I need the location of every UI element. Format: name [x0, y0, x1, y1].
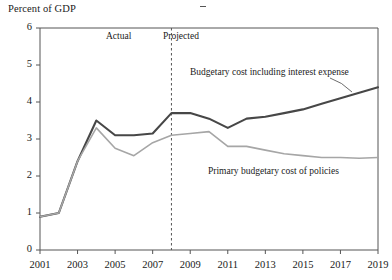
x-tick-label-2001: 2001 — [20, 259, 60, 270]
y-tick-label-2: 2 — [14, 169, 32, 180]
series-line-0 — [40, 87, 378, 217]
x-tick-label-2015: 2015 — [283, 259, 323, 270]
x-tick-label-2013: 2013 — [245, 259, 285, 270]
series-label-primary-budgetary-cost-of-policies: Primary budgetary cost of policies — [208, 166, 339, 176]
data-series-group — [40, 78, 378, 217]
series-label-leader-line — [330, 78, 352, 92]
y-tick-label-1: 1 — [14, 206, 32, 217]
x-tick-label-2017: 2017 — [320, 259, 360, 270]
line-chart-plot — [0, 0, 392, 280]
y-tick-label-5: 5 — [14, 58, 32, 69]
chart-container: Percent of GDP 0123456 20012003200520072… — [0, 0, 392, 280]
x-tick-label-2009: 2009 — [170, 259, 210, 270]
y-tick-label-6: 6 — [14, 21, 32, 32]
x-tick-label-2003: 2003 — [58, 259, 98, 270]
y-tick-label-3: 3 — [14, 132, 32, 143]
x-tick-label-2007: 2007 — [133, 259, 173, 270]
series-label-budgetary-cost-including-interest-expense: Budgetary cost including interest expens… — [190, 67, 349, 77]
x-tick-label-2011: 2011 — [208, 259, 248, 270]
projected-period-label: Projected — [163, 31, 199, 41]
actual-period-label: Actual — [106, 31, 131, 41]
x-tick-label-2019: 2019 — [358, 259, 392, 270]
x-tick-label-2005: 2005 — [95, 259, 135, 270]
y-tick-label-0: 0 — [14, 243, 32, 254]
y-tick-label-4: 4 — [14, 95, 32, 106]
